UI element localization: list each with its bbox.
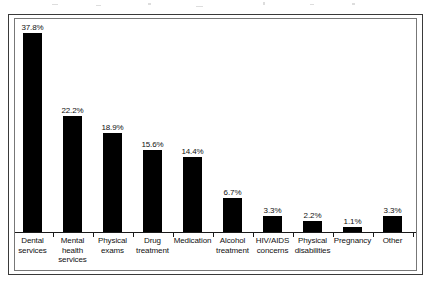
bar-value-label: 3.3% [261,206,285,215]
bar [263,216,282,233]
x-axis-category-label: Physicaldisabilities [292,236,334,255]
bar-value-label: 1.1% [341,217,365,226]
plot-area: 37.8%22.2%18.9%15.6%14.4%6.7%3.3%2.2%1.1… [15,19,416,233]
x-axis-category-label: Alcoholtreatment [212,236,254,255]
x-axis-category-label: Pregnancy [332,236,374,246]
chart-page: 37.8%22.2%18.9%15.6%14.4%6.7%3.3%2.2%1.1… [0,0,431,291]
x-axis-category-label: Medication [172,236,214,246]
bar [23,33,42,233]
x-axis-category-label: Dentalservices [12,236,54,255]
bar-value-label: 37.8% [21,23,45,32]
bar-value-label: 3.3% [381,206,405,215]
bar [183,157,202,233]
bar [103,133,122,233]
x-axis-category-label: Physicalexams [92,236,134,255]
x-axis-category-labels: DentalservicesMentalhealthservicesPhysic… [15,236,416,270]
x-axis-category-label: HIV/AIDSconcerns [252,236,294,255]
bar [383,216,402,233]
bar-value-label: 15.6% [141,140,165,149]
bar [223,198,242,233]
bar [63,116,82,233]
scan-artifact-band [0,0,431,12]
bar-value-label: 6.7% [221,188,245,197]
x-axis-category-label: Other [372,236,414,246]
x-axis-category-label: Mentalhealthservices [52,236,94,265]
x-axis-category-label: Drugtreatment [132,236,174,255]
x-axis-line [15,232,416,233]
bar-value-label: 2.2% [301,211,325,220]
bar [143,150,162,233]
bar-value-label: 18.9% [101,123,125,132]
bar-value-label: 22.2% [61,106,85,115]
bar-value-label: 14.4% [181,147,205,156]
